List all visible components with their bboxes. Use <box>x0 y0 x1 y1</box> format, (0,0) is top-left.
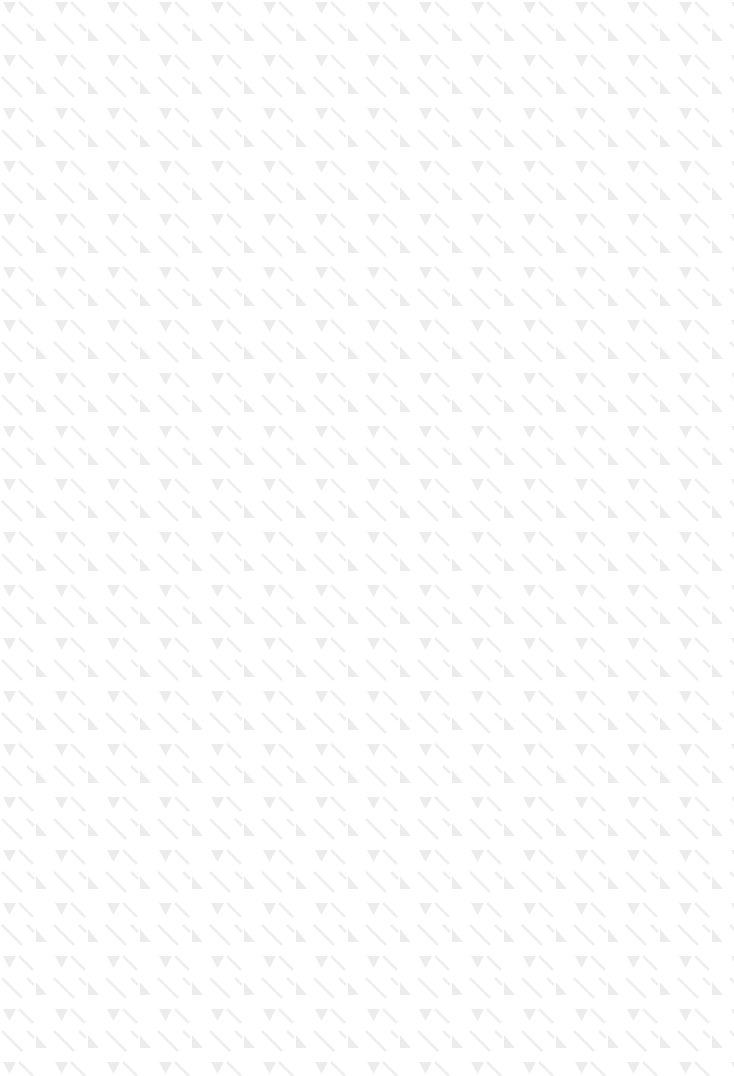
page-viewport <box>0 0 734 1076</box>
empty-content-area <box>0 0 734 1076</box>
